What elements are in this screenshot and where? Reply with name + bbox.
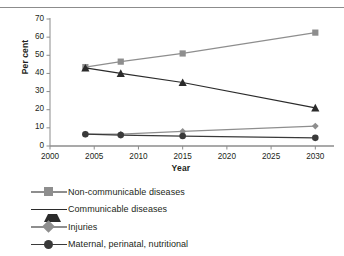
legend-item-label: Maternal, perinatal, nutritional [68, 239, 188, 249]
data-point-square [118, 59, 124, 65]
x-tick-label: 2015 [163, 152, 203, 161]
diamond-marker-icon [42, 220, 55, 233]
legend-item-label: Communicable diseases [68, 204, 167, 214]
legend-item-label: Injuries [68, 222, 97, 232]
legend-item[interactable]: Non-communicable diseases [30, 183, 330, 201]
y-tick-label: 40 [18, 68, 44, 77]
legend-item[interactable]: Communicable diseases [30, 201, 330, 219]
circle-marker-icon [44, 240, 53, 249]
x-tick-label: 2005 [74, 152, 114, 161]
chart-legend: Non-communicable diseasesCommunicable di… [30, 183, 330, 253]
data-point-diamond [312, 123, 319, 130]
legend-item[interactable]: Injuries [30, 218, 330, 236]
series-1 [81, 64, 319, 111]
legend-item[interactable]: Maternal, perinatal, nutritional [30, 236, 330, 254]
legend-key [30, 185, 68, 199]
x-tick-label: 2030 [295, 152, 335, 161]
y-tick-label: 0 [18, 141, 44, 150]
data-point-circle [312, 135, 319, 142]
legend-key [30, 202, 68, 216]
series-0 [82, 30, 318, 71]
chart-figure: Per cent Year 706050403020100 2000200520… [0, 0, 344, 256]
legend-key [30, 220, 68, 234]
x-tick-label: 2010 [118, 152, 158, 161]
y-tick-label: 70 [18, 14, 44, 23]
data-point-square [180, 50, 186, 56]
data-point-circle [117, 132, 124, 139]
y-tick-label: 20 [18, 104, 44, 113]
data-point-square [312, 30, 318, 36]
y-tick-label: 50 [18, 50, 44, 59]
square-marker-icon [44, 187, 53, 196]
data-point-circle [179, 133, 186, 140]
legend-key [30, 237, 68, 251]
series-3 [82, 131, 319, 141]
y-tick-label: 60 [18, 32, 44, 41]
x-tick-label: 2000 [30, 152, 70, 161]
legend-item-label: Non-communicable diseases [68, 187, 185, 197]
y-tick-label: 10 [18, 122, 44, 131]
x-tick-label: 2025 [251, 152, 291, 161]
x-axis-title: Year [50, 163, 312, 173]
y-tick-label: 30 [18, 86, 44, 95]
x-tick-label: 2020 [207, 152, 247, 161]
data-point-circle [82, 131, 89, 138]
